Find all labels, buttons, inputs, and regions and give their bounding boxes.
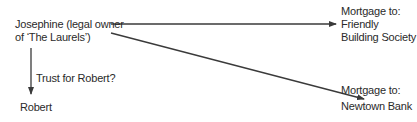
node-josephine: Josephine (legal owner of ‘The Laurels’)	[15, 18, 124, 44]
node-robert: Robert	[20, 101, 52, 114]
node-robert-line1: Robert	[20, 101, 52, 114]
edge-label-trust: Trust for Robert?	[36, 72, 115, 85]
diagram-canvas: Josephine (legal owner of ‘The Laurels’)…	[0, 0, 417, 122]
node-friendly-line1: Mortgage to:	[341, 5, 416, 18]
node-newtown-line1: Mortgage to:	[341, 84, 412, 97]
node-josephine-line2: of ‘The Laurels’)	[15, 31, 124, 44]
node-friendly-line3: Building Society	[341, 31, 416, 44]
node-friendly-building-society: Mortgage to: Friendly Building Society	[341, 5, 416, 44]
node-newtown-line2: Newtown Bank	[341, 100, 412, 113]
edge-josephine-newtown	[111, 33, 364, 99]
node-newtown-bank: Mortgage to: Newtown Bank	[341, 84, 412, 113]
node-josephine-line1: Josephine (legal owner	[15, 18, 124, 31]
node-friendly-line2: Friendly	[341, 18, 416, 31]
